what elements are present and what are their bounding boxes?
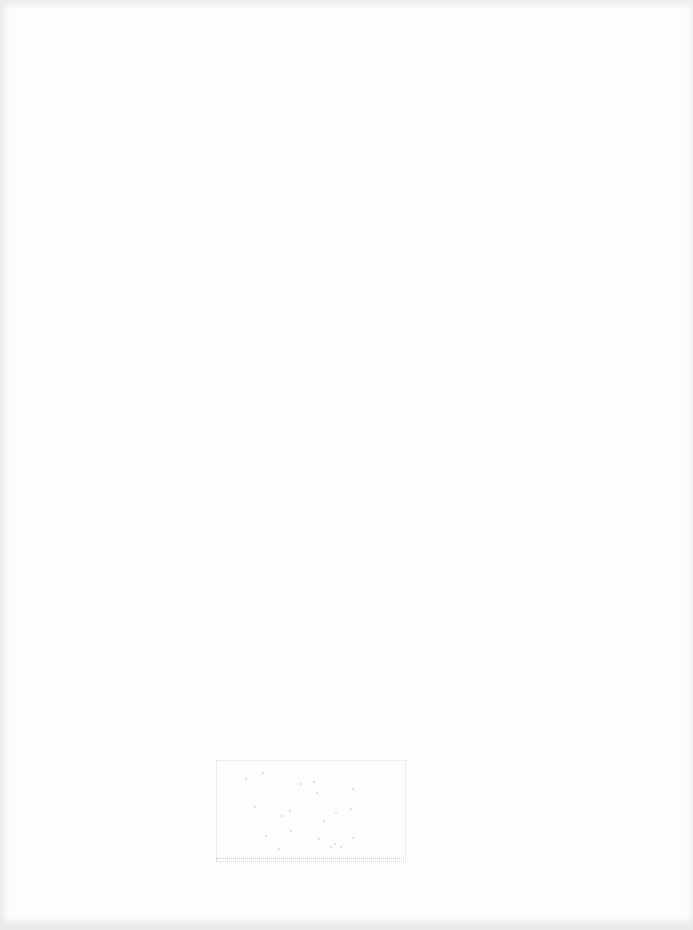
scanned-page [0, 0, 693, 930]
speck [350, 808, 352, 810]
speck [323, 820, 325, 822]
speck [278, 848, 280, 850]
page-edge-shadow-left [0, 0, 6, 930]
stamp-bottom-line [216, 858, 404, 859]
speck [316, 792, 318, 794]
page-edge-shadow-bottom [0, 916, 693, 930]
speck [340, 846, 342, 848]
page-edge-shadow-top [0, 0, 693, 8]
speck [265, 835, 267, 837]
speck [352, 837, 354, 839]
speck [335, 812, 337, 814]
speck [334, 843, 336, 845]
speck [330, 846, 332, 848]
speck [262, 772, 264, 774]
speck [254, 806, 256, 808]
stamp-text [216, 760, 404, 860]
speck [290, 830, 292, 832]
speck [313, 781, 315, 783]
speck [281, 815, 283, 817]
speck [289, 810, 291, 812]
speck [300, 783, 302, 785]
speck [318, 838, 320, 840]
speck [352, 788, 354, 790]
speck [245, 778, 247, 780]
